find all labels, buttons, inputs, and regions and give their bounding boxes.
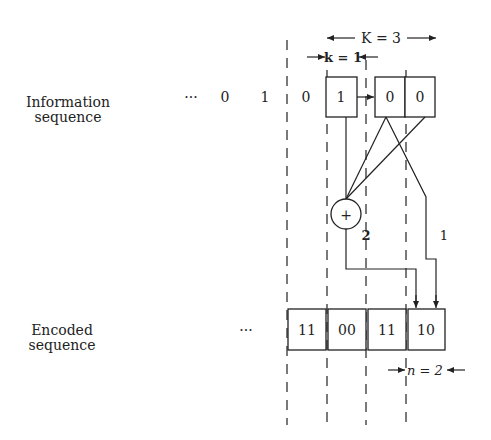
- n-label: n = 2: [407, 363, 443, 378]
- encoded-label-1: Encoded: [31, 322, 93, 338]
- info-bit: 1: [261, 89, 270, 105]
- encoded-cell: 11: [298, 322, 316, 338]
- K-label: K = 3: [361, 30, 401, 46]
- encoder-diagram: K = 3 k = 1 Information sequence ··· 0 1…: [0, 0, 491, 440]
- encoded-cell: 10: [417, 322, 435, 338]
- adder-output-label: 2: [361, 228, 370, 243]
- plus-icon: +: [340, 207, 352, 223]
- register-cell: 0: [386, 89, 395, 105]
- K-dimension: K = 3: [327, 30, 436, 46]
- info-bit: 0: [302, 89, 311, 105]
- info-ellipsis: ···: [184, 89, 197, 105]
- k-dimension: k = 1: [307, 50, 378, 65]
- info-bit: 0: [221, 89, 230, 105]
- encoded-cell: 00: [338, 322, 356, 338]
- encoded-cell: 11: [378, 322, 396, 338]
- encoded-ellipsis: ···: [239, 322, 252, 338]
- direct-output-label: 1: [440, 228, 448, 243]
- register-cell: 1: [337, 89, 346, 105]
- register-cell: 0: [416, 89, 425, 105]
- information-label-2: sequence: [35, 109, 102, 125]
- information-label-1: Information: [26, 94, 110, 110]
- encoded-label-2: sequence: [29, 337, 96, 353]
- k-label: k = 1: [324, 50, 362, 65]
- n-dimension: n = 2: [388, 363, 465, 378]
